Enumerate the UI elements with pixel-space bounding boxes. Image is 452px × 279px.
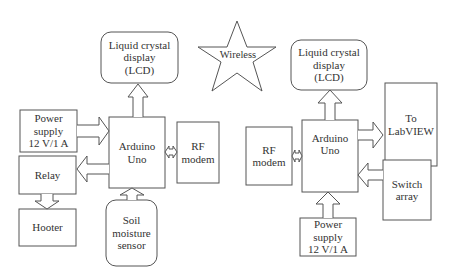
arrow-relay-to-hooter bbox=[35, 194, 59, 209]
left-lcd-label: Liquid crystal display (LCD) bbox=[101, 32, 178, 83]
arrow-arduino-to-lcd bbox=[128, 84, 148, 117]
right-lcd-label: Liquid crystal display (LCD) bbox=[291, 40, 367, 90]
left-relay-label: Relay bbox=[19, 156, 76, 194]
left-rf-label: RF modem bbox=[177, 122, 219, 183]
arrow-right-arduino-to-labview bbox=[358, 122, 383, 148]
arrow-right-rf-arduino-bidirectional bbox=[292, 150, 302, 162]
arrow-right-arduino-to-lcd bbox=[318, 90, 342, 120]
left-power-label: Power supply 12 V/1 A bbox=[20, 110, 77, 152]
arrow-right-power-to-arduino bbox=[316, 192, 340, 218]
left-hooter-label: Hooter bbox=[19, 209, 76, 246]
arrow-switch-to-arduino bbox=[358, 163, 383, 187]
right-arduino-label: Arduino Uno bbox=[302, 120, 358, 168]
left-arduino-label: Arduino Uno bbox=[109, 117, 165, 188]
right-switch-label: Switch array bbox=[383, 160, 431, 220]
right-power-label: Power supply 12 V/1 A bbox=[300, 218, 356, 256]
arrow-arduino-rf-bidirectional bbox=[165, 146, 177, 158]
right-labview-label: To LabVIEW bbox=[385, 83, 437, 166]
right-rf-label: RF modem bbox=[246, 127, 292, 185]
arrow-arduino-to-relay bbox=[77, 156, 109, 182]
wireless-label: Wireless bbox=[212, 48, 264, 62]
arrow-sensor-to-arduino bbox=[120, 188, 144, 200]
left-sensor-label: Soil moisture sensor bbox=[106, 200, 157, 266]
arrow-power-to-arduino bbox=[77, 117, 109, 145]
